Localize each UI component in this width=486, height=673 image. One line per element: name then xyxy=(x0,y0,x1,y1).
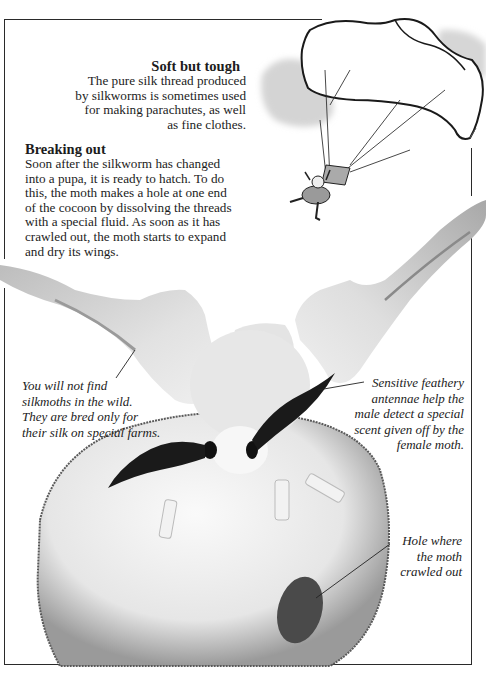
caption-line: male detect a special xyxy=(340,406,464,422)
caption-line: silkmoths in the wild. xyxy=(22,394,172,410)
caption-line: female moth. xyxy=(340,437,464,453)
body-line: into a pupa, it is ready to hatch. To do xyxy=(25,172,255,187)
moth-thorax xyxy=(190,330,310,440)
caption-line: Sensitive feathery xyxy=(340,375,464,391)
body-line: Soon after the silkworm has changed xyxy=(25,157,255,172)
section-heading: Breaking out xyxy=(25,141,255,157)
body-line: The pure silk thread produced xyxy=(60,74,246,89)
body-line: this, the moth makes a hole at one end xyxy=(25,186,255,201)
caption-antennae: Sensitive feathery antennae help the mal… xyxy=(340,375,464,453)
caption-line: antennae help the xyxy=(340,391,464,407)
section-breaking-out: Breaking out Soon after the silkworm has… xyxy=(25,141,255,259)
caption-line: Hole where xyxy=(380,533,462,549)
section-soft-but-tough: Soft but tough The pure silk thread prod… xyxy=(60,58,246,132)
moth-right-wing xyxy=(295,200,486,383)
body-line: as fine clothes. xyxy=(60,118,246,133)
caption-line: You will not find xyxy=(22,378,172,394)
caption-line: They are bred only for xyxy=(22,409,172,425)
caption-line: the moth xyxy=(380,549,462,565)
caption-line: scent given off by the xyxy=(340,422,464,438)
body-line: with a special fluid. As soon as it has xyxy=(25,215,255,230)
body-line: crawled out, the moth starts to expand xyxy=(25,230,255,245)
caption-hole: Hole where the moth crawled out xyxy=(380,533,462,580)
section-heading: Soft but tough xyxy=(60,58,240,74)
parachute-illustration xyxy=(261,19,486,220)
body-line: of the cocoon by dissolving the threads xyxy=(25,201,255,216)
body-line: by silkworms is sometimes used xyxy=(60,89,246,104)
caption-wild-silkmoths: You will not find silkmoths in the wild.… xyxy=(22,378,172,440)
body-line: and dry its wings. xyxy=(25,245,255,260)
caption-line: their silk on special farms. xyxy=(22,425,172,441)
caption-line: crawled out xyxy=(380,564,462,580)
body-line: for making parachutes, as well xyxy=(60,103,246,118)
parachute-harness xyxy=(322,165,350,185)
leader-line-wild xyxy=(116,350,135,378)
